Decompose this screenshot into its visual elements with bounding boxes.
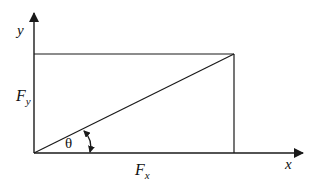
x-axis-label: x	[284, 156, 292, 172]
angle-arc-icon	[84, 131, 91, 152]
y-axis-label: y	[15, 22, 24, 38]
theta-label: θ	[65, 135, 72, 151]
force-diagram: y x Fy Fx θ	[0, 0, 316, 186]
resultant-force-vector	[34, 54, 234, 153]
fy-label: Fy	[15, 87, 31, 107]
fx-label: Fx	[134, 161, 150, 181]
